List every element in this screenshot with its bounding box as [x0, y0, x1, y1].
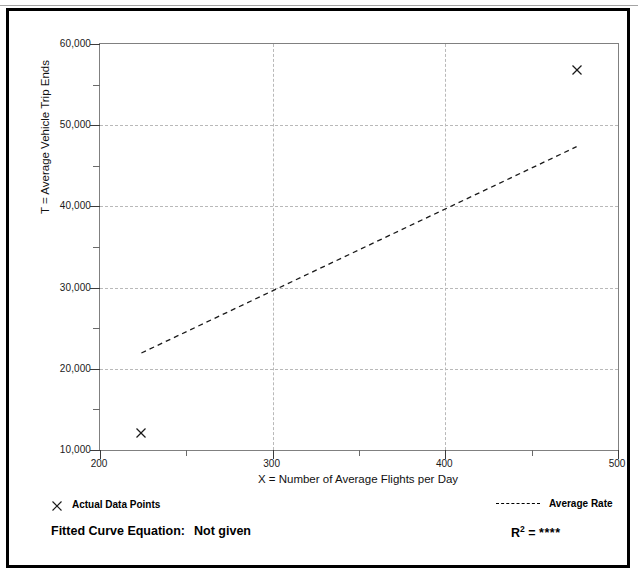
x-tick-label: 200	[91, 458, 108, 469]
legend-label-average-rate: Average Rate	[549, 498, 613, 509]
y-tick-minor	[93, 328, 100, 329]
gridline-horizontal-20000	[100, 369, 618, 370]
y-tick-major	[90, 288, 100, 289]
gridline-horizontal-40000	[100, 206, 618, 207]
y-tick-minor	[93, 247, 100, 248]
x-tick-minor	[186, 450, 187, 456]
r-squared-symbol: R	[511, 526, 520, 540]
plot-area	[99, 43, 619, 451]
r-squared-annotation: R2 = ****	[511, 524, 561, 540]
legend-item-actual-data-points: Actual Data Points	[51, 498, 160, 510]
fitted-curve-equation-value: Not given	[194, 524, 251, 538]
y-tick-major	[90, 369, 100, 370]
r-squared-value: ****	[539, 526, 560, 540]
y-axis-title: T = Average Vehicle Trip Ends	[39, 37, 51, 237]
y-tick-label: 10,000	[60, 444, 91, 455]
fitted-curve-equation-label: Fitted Curve Equation:	[51, 524, 185, 538]
y-tick-label: 60,000	[60, 38, 91, 49]
x-tick-label: 300	[263, 458, 280, 469]
r-squared-exponent: 2	[520, 524, 525, 534]
x-tick-minor	[359, 450, 360, 456]
y-tick-major	[90, 44, 100, 45]
y-tick-label: 40,000	[60, 200, 91, 211]
chart-legend: Actual Data Points Average Rate	[9, 498, 633, 522]
x-axis-tick-labels: 200 300 400 500	[99, 458, 617, 474]
y-tick-label: 20,000	[60, 362, 91, 373]
data-point-marker	[136, 428, 147, 439]
figure-frame: 60,000 50,000 40,000 30,000 20,000 10,00…	[6, 8, 630, 568]
equation-row: Fitted Curve Equation:Not given R2 = ***…	[9, 524, 633, 550]
r-squared-equals: =	[528, 526, 535, 540]
gridline-vertical-300	[273, 44, 274, 450]
y-tick-label: 30,000	[60, 281, 91, 292]
gridline-horizontal-30000	[100, 288, 618, 289]
scan-artifact	[0, 0, 638, 6]
y-tick-minor	[93, 166, 100, 167]
x-marker-icon	[51, 498, 63, 510]
legend-item-average-rate: Average Rate	[496, 498, 613, 509]
average-rate-trend-line	[100, 44, 618, 450]
data-point-marker	[571, 64, 582, 75]
y-tick-major	[90, 450, 100, 451]
gridline-horizontal-50000	[100, 125, 618, 126]
y-tick-major	[90, 206, 100, 207]
y-tick-label: 50,000	[60, 119, 91, 130]
x-tick-minor	[532, 450, 533, 456]
gridline-vertical-400	[445, 44, 446, 450]
x-tick-label: 400	[436, 458, 453, 469]
y-tick-minor	[93, 409, 100, 410]
y-tick-minor	[93, 85, 100, 86]
x-axis-title: X = Number of Average Flights per Day	[99, 473, 617, 485]
y-tick-major	[90, 125, 100, 126]
x-tick-label: 500	[609, 458, 626, 469]
dashed-line-icon	[496, 503, 540, 504]
fitted-curve-equation: Fitted Curve Equation:Not given	[51, 524, 251, 538]
legend-label-actual-data-points: Actual Data Points	[72, 499, 160, 510]
